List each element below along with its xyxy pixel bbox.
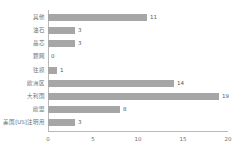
x-axis-ticks: 05101520 <box>48 133 228 145</box>
plot-area: 其他11油石3晶芯3颗网0往摸1欧洲区14大利国19欧盟8美国[US]注明用3 <box>48 10 228 131</box>
bar-value-label: 3 <box>78 119 82 126</box>
category-label: 晶芯 <box>33 40 45 47</box>
bar <box>48 80 174 87</box>
category-label: 欧盟 <box>33 106 45 113</box>
bar-chart: 其他11油石3晶芯3颗网0往摸1欧洲区14大利国19欧盟8美国[US]注明用3 … <box>0 0 242 160</box>
bar-value-label: 1 <box>60 67 64 74</box>
bar <box>48 27 75 34</box>
category-label: 其他 <box>33 14 45 21</box>
bar <box>48 93 219 100</box>
bar-value-label: 3 <box>78 27 82 34</box>
bar-row: 油石3 <box>48 25 228 36</box>
bar <box>48 106 120 113</box>
x-tick-label: 15 <box>180 135 187 143</box>
bar-value-label: 19 <box>222 93 229 100</box>
bar <box>48 67 57 74</box>
bar-rows: 其他11油石3晶芯3颗网0往摸1欧洲区14大利国19欧盟8美国[US]注明用3 <box>48 10 228 131</box>
bar-row: 欧洲区14 <box>48 78 228 89</box>
bar-value-label: 11 <box>150 14 157 21</box>
bar-value-label: 8 <box>123 106 127 113</box>
bar-value-label: 3 <box>78 40 82 47</box>
bar-row: 晶芯3 <box>48 38 228 49</box>
bar-value-label: 0 <box>51 53 55 60</box>
bar-value-label: 14 <box>177 80 184 87</box>
category-label: 美国[US]注明用 <box>3 119 45 126</box>
x-tick-label: 0 <box>46 135 50 143</box>
bar-row: 其他11 <box>48 12 228 23</box>
x-tick-label: 5 <box>91 135 95 143</box>
category-label: 欧洲区 <box>27 80 45 87</box>
bar <box>48 40 75 47</box>
category-label: 油石 <box>33 27 45 34</box>
bar-row: 颗网0 <box>48 51 228 62</box>
bar-row: 大利国19 <box>48 91 228 102</box>
x-axis-line <box>48 131 228 132</box>
category-label: 颗网 <box>33 53 45 60</box>
bar <box>48 119 75 126</box>
category-label: 往摸 <box>33 67 45 74</box>
x-tick-label: 20 <box>225 135 232 143</box>
bar-row: 欧盟8 <box>48 104 228 115</box>
bar-row: 往摸1 <box>48 65 228 76</box>
category-label: 大利国 <box>27 93 45 100</box>
x-tick-label: 10 <box>135 135 142 143</box>
bar-row: 美国[US]注明用3 <box>48 117 228 128</box>
bar <box>48 14 147 21</box>
